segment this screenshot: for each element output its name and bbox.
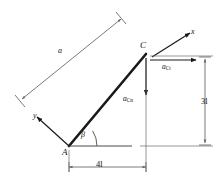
label-y-axis: y bbox=[33, 112, 37, 120]
x-axis-arrow bbox=[152, 33, 190, 57]
label-point-C: C bbox=[140, 41, 146, 50]
angle-beta-arc bbox=[93, 131, 97, 146]
label-act-subscript: Ct bbox=[166, 65, 171, 71]
label-point-A: A bbox=[62, 148, 68, 157]
dimension-rod-length-a bbox=[15, 12, 126, 107]
label-x-axis: x bbox=[191, 28, 195, 36]
diagram-canvas bbox=[0, 0, 223, 186]
label-dimension-4l: 4l bbox=[96, 160, 103, 169]
label-acceleration-tangential: aCt bbox=[162, 63, 171, 72]
y-axis-arrow bbox=[37, 117, 69, 146]
kinematics-diagram: a x y C A β aCt aCn 4l 3l bbox=[0, 0, 223, 186]
extension-lines bbox=[69, 56, 213, 172]
label-acn-subscript: Cn bbox=[127, 97, 133, 103]
dimension-horizontal-4l bbox=[69, 162, 146, 172]
label-acceleration-normal: aCn bbox=[123, 95, 133, 104]
label-dimension-3l: 3l bbox=[201, 97, 208, 106]
label-angle-beta: β bbox=[81, 131, 85, 139]
label-rod-length-a: a bbox=[58, 47, 62, 55]
